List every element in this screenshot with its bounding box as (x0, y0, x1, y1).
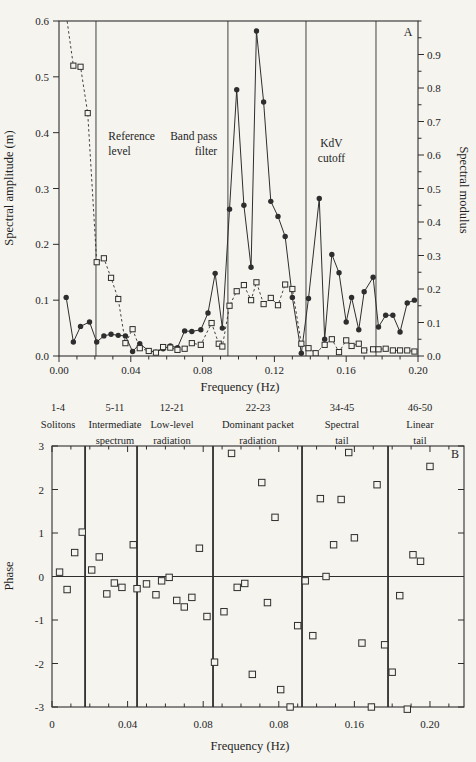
data-point-square (64, 586, 70, 592)
data-point-square (153, 350, 158, 355)
data-point-circle (275, 214, 280, 219)
data-point-circle (370, 275, 375, 280)
y-right-tick-label: 0.0 (427, 350, 441, 362)
data-point-square (158, 578, 164, 584)
data-point-square (376, 347, 381, 352)
data-point-circle (87, 319, 92, 324)
data-point-square (78, 64, 83, 69)
group-range-label: 5-11 (106, 402, 125, 413)
data-point-circle (227, 206, 232, 211)
x-tick-label: 0.16 (337, 364, 357, 376)
data-point-square (242, 580, 248, 586)
data-point-square (161, 344, 166, 349)
data-point-square (404, 706, 410, 712)
data-point-circle (101, 333, 106, 338)
group-name-label: Intermediate (88, 419, 141, 430)
data-point-square (259, 479, 265, 485)
data-point-square (283, 282, 288, 287)
data-point-square (174, 597, 180, 603)
data-point-square (346, 449, 352, 455)
y-tick-label: 2 (39, 484, 45, 496)
data-point-square (322, 342, 327, 347)
data-point-circle (254, 28, 259, 33)
data-point-circle (356, 327, 361, 332)
data-point-circle (405, 300, 410, 305)
annotation-text: Reference (108, 130, 155, 142)
panel-a-letter: A (404, 25, 413, 39)
data-point-circle (261, 99, 266, 104)
data-point-square (71, 63, 76, 68)
data-point-square (204, 613, 210, 619)
data-point-square (290, 286, 295, 291)
data-point-square (356, 341, 361, 346)
data-point-circle (282, 234, 287, 239)
data-point-square (412, 349, 417, 354)
data-point-square (137, 346, 142, 351)
y-right-tick-label: 0.6 (427, 149, 441, 161)
data-point-square (299, 341, 304, 346)
data-point-square (362, 348, 367, 353)
data-point-square (221, 609, 227, 615)
data-point-square (101, 256, 106, 261)
data-point-circle (220, 325, 225, 330)
data-point-circle (198, 327, 203, 332)
data-point-circle (205, 310, 210, 315)
data-point-square (85, 111, 90, 116)
x-tick-label: 0 (49, 718, 55, 730)
data-point-square (254, 280, 259, 285)
data-point-circle (361, 289, 366, 294)
group-name-label: Solitons (41, 419, 75, 430)
panel-a-spectrum-chart: 0.000.040.080.120.160.200.00.10.20.30.40… (0, 0, 476, 398)
data-point-square (390, 348, 395, 353)
figure-page: 0.000.040.080.120.160.200.00.10.20.30.40… (0, 0, 476, 762)
data-point-square (88, 567, 94, 573)
data-point-square (249, 671, 255, 677)
group-range-label: 46-50 (408, 402, 433, 413)
group-range-label: 22-23 (246, 402, 271, 413)
data-point-square (272, 514, 278, 520)
data-point-square (359, 640, 365, 646)
group-name-label: tail (335, 435, 348, 446)
data-point-square (397, 592, 403, 598)
y-tick-label: 1 (39, 527, 45, 539)
data-point-square (146, 348, 151, 353)
data-point-square (182, 346, 187, 351)
data-point-square (277, 686, 283, 692)
data-point-square (427, 463, 433, 469)
data-point-square (368, 704, 374, 710)
panel-b-letter: B (451, 447, 459, 461)
data-point-square (181, 604, 187, 610)
data-point-square (108, 275, 113, 280)
data-point-square (130, 542, 136, 548)
data-point-square (198, 342, 203, 347)
annotation-text: KdV (320, 137, 343, 149)
data-point-square (227, 303, 232, 308)
data-point-square (168, 345, 173, 350)
y-right-tick-label: 0.2 (427, 283, 441, 295)
data-point-circle (376, 324, 381, 329)
data-point-square (123, 341, 128, 346)
data-point-circle (390, 313, 395, 318)
annotation-text: level (108, 145, 130, 157)
y-right-tick-label: 0.3 (427, 250, 441, 262)
data-point-square (374, 482, 380, 488)
data-point-square (302, 578, 308, 584)
data-point-circle (241, 203, 246, 208)
data-point-square (71, 549, 77, 555)
data-point-circle (322, 337, 327, 342)
data-point-square (104, 591, 110, 597)
data-point-circle (317, 196, 322, 201)
data-point-circle (94, 339, 99, 344)
data-point-circle (234, 87, 239, 92)
x-tick-label: 0.16 (345, 718, 365, 730)
data-point-square (79, 529, 85, 535)
data-point-square (268, 295, 273, 300)
data-point-square (119, 584, 125, 590)
y-tick-label: -3 (35, 701, 45, 713)
y-tick-label: 0 (39, 571, 45, 583)
group-name-label: Dominant packet (222, 419, 294, 430)
y-right-axis-title: Spectral modulus (457, 146, 471, 233)
data-point-square (323, 573, 329, 579)
data-point-circle (78, 324, 83, 329)
data-point-circle (108, 332, 113, 337)
